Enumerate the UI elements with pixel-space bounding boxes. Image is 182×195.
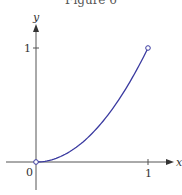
y-tick-label-1: 1: [24, 42, 31, 55]
curve-series: [36, 48, 148, 162]
x-axis-label: x: [176, 156, 182, 169]
y-axis-label: y: [32, 11, 40, 24]
x-tick-label-1: 1: [145, 167, 152, 180]
origin-label: 0: [26, 166, 33, 179]
plot-area: x y 0 1 1: [0, 0, 182, 195]
x-axis-arrow-icon: [166, 159, 174, 165]
origin-open-point: [34, 160, 39, 165]
endpoint-open-point: [146, 46, 151, 51]
y-axis-arrow-icon: [33, 24, 39, 32]
